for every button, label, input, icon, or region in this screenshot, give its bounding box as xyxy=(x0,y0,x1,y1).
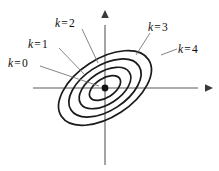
contour-label-k1-eq: = xyxy=(33,38,42,50)
contour-label-k4-value: 4 xyxy=(192,43,198,55)
level-curve-diagram: k=0 k=1 k=2 k=3 k=4 xyxy=(0,0,219,171)
leader-line-k1 xyxy=(59,48,84,74)
contour-label-k0-eq: = xyxy=(13,57,22,69)
y-axis-arrowhead xyxy=(101,10,109,18)
diagram-canvas xyxy=(0,0,219,171)
coordinate-axes xyxy=(33,10,213,165)
origin-point xyxy=(102,85,109,92)
contour-label-k4: k=4 xyxy=(178,43,198,55)
leader-line-k0 xyxy=(40,66,99,86)
contour-label-k3-eq: = xyxy=(153,21,162,33)
contour-label-k2: k=2 xyxy=(55,17,75,29)
x-axis-arrowhead xyxy=(205,84,213,92)
contour-label-k0-value: 0 xyxy=(22,57,28,69)
contour-label-k1-value: 1 xyxy=(42,38,48,50)
contour-label-k1: k=1 xyxy=(28,38,48,50)
leader-line-k3 xyxy=(136,33,150,55)
leader-lines xyxy=(40,29,177,86)
contour-label-k2-eq: = xyxy=(60,17,69,29)
contour-label-k3-value: 3 xyxy=(162,21,168,33)
contour-label-k2-value: 2 xyxy=(69,17,75,29)
contour-label-k3: k=3 xyxy=(148,21,168,33)
leader-line-k4 xyxy=(161,49,177,55)
contour-label-k0: k=0 xyxy=(8,57,28,69)
leader-line-k2 xyxy=(82,29,98,63)
contour-label-k4-eq: = xyxy=(183,43,192,55)
